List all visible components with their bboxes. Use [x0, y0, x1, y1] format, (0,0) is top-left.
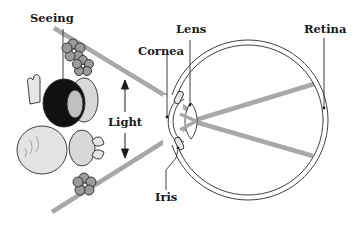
child-face [67, 90, 83, 118]
label-cornea: Cornea [138, 44, 185, 58]
iris-leader [166, 150, 178, 190]
cartoon-children [17, 39, 104, 195]
arrow-up-icon [122, 80, 129, 89]
arrow-down-icon [122, 149, 129, 158]
light-ray-to-retina-top [192, 84, 314, 121]
label-iris: Iris [155, 190, 177, 204]
light-ray-to-retina-bottom [192, 121, 313, 156]
child-bottom-clothes [69, 130, 95, 166]
flower-icon [73, 173, 96, 195]
label-lens: Lens [176, 22, 206, 36]
label-retina: Retina [304, 22, 347, 36]
child-light-hair-head [17, 126, 67, 174]
label-light: Light [108, 115, 143, 129]
label-seeing: Seeing [30, 11, 74, 25]
eye-diagram: Seeing Lens Retina Cornea Light Iris [0, 0, 358, 228]
waving-hand [27, 75, 40, 104]
